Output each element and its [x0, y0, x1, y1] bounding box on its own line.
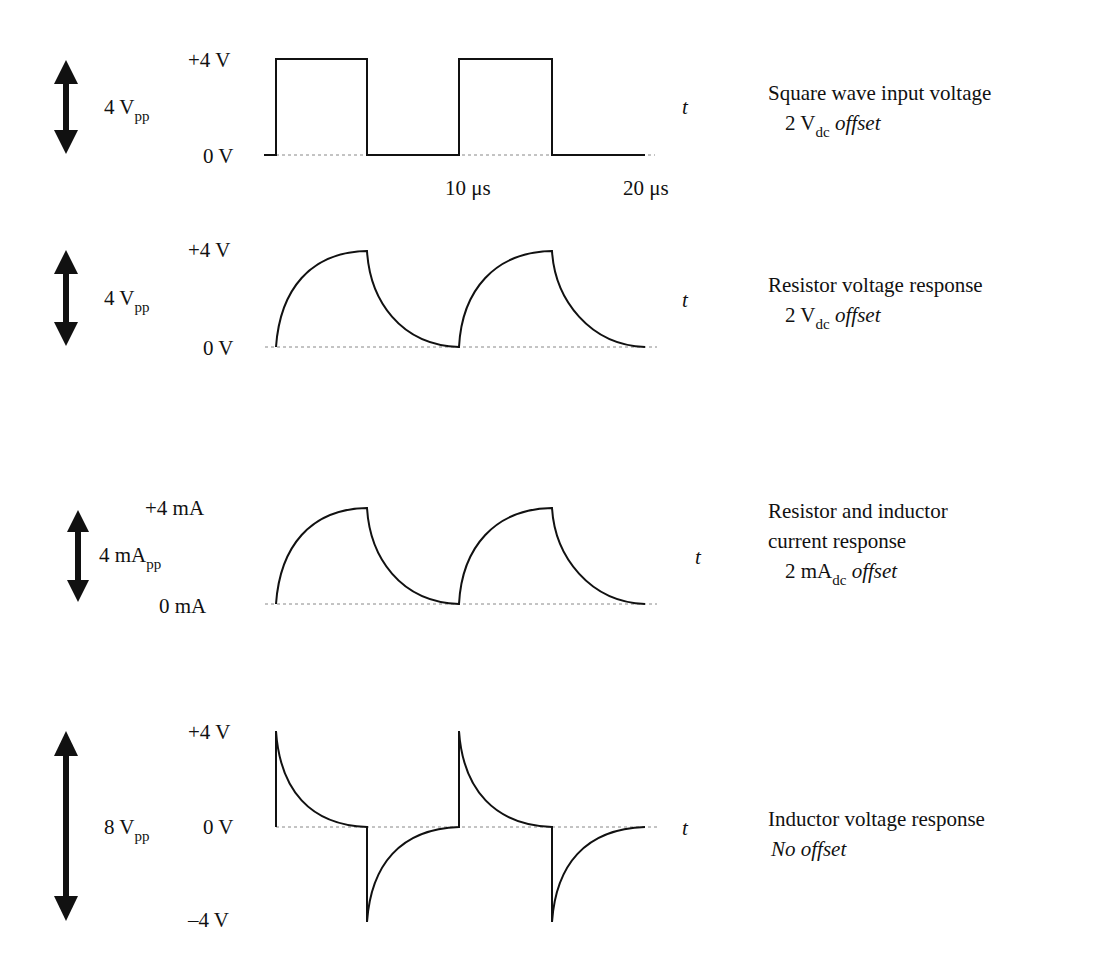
t-axis-label: t [682, 97, 688, 118]
t-axis-label: t [682, 290, 688, 311]
resistor-voltage-trace [276, 251, 645, 347]
panel-4-description: Inductor voltage response No offset [768, 804, 985, 864]
offset-label: No offset [768, 834, 985, 864]
x-tick-10us: 10 μs [445, 178, 491, 199]
amplitude-value: 4 V [104, 286, 135, 310]
offset-label: 2 Vdc offset [768, 108, 991, 140]
panel-3-description: Resistor and inductor current response 2… [768, 496, 948, 588]
y-tick-bottom: –4 V [188, 910, 229, 931]
offset-label: 2 Vdc offset [768, 300, 983, 332]
y-tick-top: +4 mA [145, 498, 204, 519]
amplitude-value: 8 V [104, 815, 135, 839]
panel-title: Square wave input voltage [768, 78, 991, 108]
panel-title: Resistor voltage response [768, 270, 983, 300]
panel-title-line-1: Resistor and inductor [768, 496, 948, 526]
double-arrow-icon [54, 731, 78, 921]
y-tick-zero: 0 V [203, 817, 234, 838]
offset-label: 2 mAdc offset [768, 556, 948, 588]
amplitude-subscript: pp [146, 556, 161, 572]
current-trace [276, 508, 645, 604]
amplitude-label: 8 Vpp [104, 817, 150, 838]
amplitude-subscript: pp [135, 828, 150, 844]
t-axis-label: t [695, 547, 701, 568]
panel-1-description: Square wave input voltage 2 Vdc offset [768, 78, 991, 140]
x-tick-20us: 20 μs [623, 178, 669, 199]
y-tick-zero: 0 mA [159, 596, 206, 617]
panel-2-description: Resistor voltage response 2 Vdc offset [768, 270, 983, 332]
amplitude-label: 4 mApp [99, 545, 161, 566]
square-wave-trace [264, 59, 645, 155]
y-tick-top: +4 V [188, 722, 230, 743]
amplitude-subscript: pp [135, 108, 150, 124]
y-tick-zero: 0 V [203, 146, 234, 167]
y-tick-top: +4 V [188, 50, 230, 71]
amplitude-value: 4 V [104, 95, 135, 119]
y-tick-zero: 0 V [203, 338, 234, 359]
t-axis-label: t [682, 818, 688, 839]
amplitude-value: 4 mA [99, 543, 146, 567]
panel-title-line-2: current response [768, 526, 948, 556]
double-arrow-icon [54, 60, 78, 154]
y-tick-top: +4 V [188, 240, 230, 261]
amplitude-label: 4 Vpp [104, 288, 150, 309]
panel-title: Inductor voltage response [768, 804, 985, 834]
amplitude-label: 4 Vpp [104, 97, 150, 118]
amplitude-subscript: pp [135, 299, 150, 315]
double-arrow-icon [67, 510, 89, 602]
double-arrow-icon [54, 250, 78, 346]
